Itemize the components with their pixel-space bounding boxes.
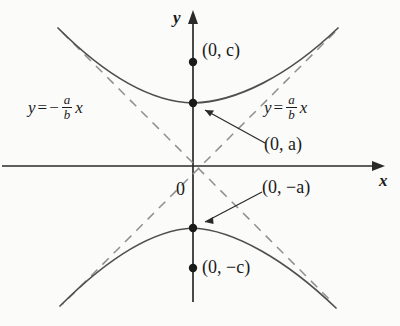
upper-branch: [58, 28, 338, 103]
asymptote-right-equals: =: [274, 99, 284, 116]
asymptote-left-sign: −: [49, 99, 59, 116]
y-axis-label: y: [173, 9, 181, 26]
asymptote-lines: [62, 32, 335, 304]
focus-upper-label: (0, c): [202, 41, 240, 59]
focus-lower-label: (0, −c): [202, 258, 250, 276]
lower-branch: [60, 228, 336, 308]
vertex-lower-leader: [205, 192, 262, 222]
x-axis-label: x: [379, 172, 388, 189]
asymptote-right-variable: x: [300, 99, 308, 116]
asymptote-left-equals: =: [38, 99, 48, 116]
vertex-upper-label: (0, a): [264, 135, 302, 153]
leader-arrows: [205, 110, 265, 224]
asymptote-right-equation: y = a b x: [264, 93, 307, 121]
y-axis-arrowhead: [188, 10, 198, 24]
x-axis-arrowhead: [372, 161, 385, 171]
focus-upper-dot: [189, 58, 197, 66]
vertex-upper-dot: [189, 99, 197, 107]
vertex-lower-label: (0, −a): [262, 178, 310, 196]
hyperbola-figure: [0, 0, 400, 326]
vertex-lower-dot: [189, 224, 197, 232]
y-axis: [188, 10, 198, 302]
origin-label: 0: [176, 180, 185, 198]
asymptote-left-variable: x: [75, 99, 83, 116]
asymptote-right-denominator: b: [286, 107, 297, 122]
asymptote-left-equation: y = − a b x: [28, 93, 83, 121]
asymptote-right-lhs: y: [264, 99, 272, 116]
asymptote-right-numerator: a: [286, 93, 297, 107]
asymptote-left-fraction: a b: [62, 93, 73, 121]
vertex-upper-leader: [205, 110, 265, 143]
focus-lower-dot: [189, 264, 197, 272]
asymptote-left-denominator: b: [62, 107, 73, 122]
asymptote-left-numerator: a: [62, 93, 73, 107]
asymptote-right-fraction: a b: [286, 93, 297, 121]
asymptote-left-lhs: y: [28, 99, 36, 116]
